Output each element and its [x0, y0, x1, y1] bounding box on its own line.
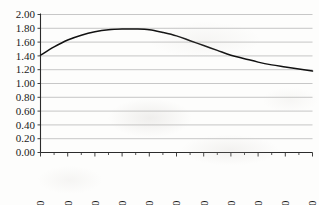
chart-container: 0.000.200.400.600.801.001.201.401.601.80…	[0, 0, 319, 205]
x-axis-tick-label: 2060	[198, 200, 210, 205]
x-axis-tick-label: 2040	[143, 200, 155, 205]
x-axis-tick-label: 2070	[225, 200, 237, 205]
x-axis-tick-label: 2030	[116, 200, 128, 205]
y-axis-tick-label: 1.40	[16, 50, 36, 62]
x-axis-tick-label: 2100	[306, 200, 318, 205]
y-axis-tick-label: 1.60	[16, 36, 36, 48]
y-axis-labels: 0.000.200.400.600.801.001.201.401.601.80…	[16, 8, 36, 158]
x-axis-tick-label: 2010	[62, 200, 74, 205]
data-series-line	[41, 29, 313, 71]
x-axis-tick-label: 2090	[279, 200, 291, 205]
x-axis-tick-label: 2080	[252, 200, 264, 205]
y-axis-tick-label: 1.00	[16, 77, 36, 89]
y-axis-tick-label: 0.60	[16, 105, 36, 117]
y-axis-tick-label: 0.20	[16, 132, 36, 144]
x-axis-tick-label: 2000	[34, 200, 46, 205]
line-chart: 0.000.200.400.600.801.001.201.401.601.80…	[0, 0, 319, 205]
gridlines	[41, 15, 313, 139]
x-axis-tick-label: 2050	[170, 200, 182, 205]
y-axis-tick-label: 2.00	[16, 8, 36, 20]
x-axis-labels: 2000201020202030204020502060207020802090…	[34, 200, 318, 205]
x-axis-ticks	[41, 153, 313, 157]
y-axis-tick-label: 0.00	[16, 146, 36, 158]
y-axis-tick-label: 1.20	[16, 63, 36, 75]
y-axis-tick-label: 0.40	[16, 119, 36, 131]
x-axis-tick-label: 2020	[89, 200, 101, 205]
y-axis-tick-label: 1.80	[16, 22, 36, 34]
y-axis-tick-label: 0.80	[16, 91, 36, 103]
